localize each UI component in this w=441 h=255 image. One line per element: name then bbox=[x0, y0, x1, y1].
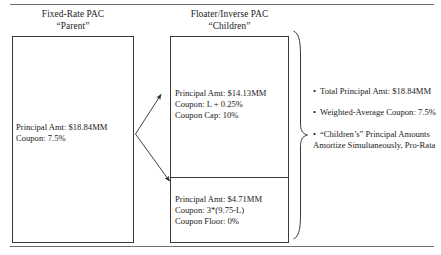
inverse-principal-amount: Principal Amt: $4.71MM bbox=[175, 194, 262, 205]
parent-header-line1: Fixed-Rate PAC bbox=[42, 9, 104, 19]
inverse-pac-details: Principal Amt: $4.71MM Coupon: 3*(9.75-L… bbox=[175, 194, 262, 228]
arrow-to-inverse bbox=[136, 134, 170, 181]
inverse-coupon-floor: Coupon Floor: 0% bbox=[175, 216, 262, 227]
arrow-to-floater bbox=[136, 95, 162, 135]
parent-column-header: Fixed-Rate PAC “Parent” bbox=[12, 9, 134, 32]
bullet-marker-icon: • bbox=[313, 129, 320, 140]
summary-bullet-list: • Total Principal Amt: $18.84MM • Weight… bbox=[313, 86, 439, 151]
bullet-marker-icon: • bbox=[313, 107, 320, 118]
floater-coupon-cap: Coupon Cap: 10% bbox=[175, 110, 266, 121]
floater-coupon: Coupon: L + 0.25% bbox=[175, 99, 266, 110]
floater-pac-details: Principal Amt: $14.13MM Coupon: L + 0.25… bbox=[175, 88, 266, 122]
list-item: • Total Principal Amt: $18.84MM bbox=[313, 86, 439, 97]
list-item: • Weighted-Average Coupon: 7.5% bbox=[313, 107, 439, 118]
inverse-coupon: Coupon: 3*(9.75-L) bbox=[175, 205, 262, 216]
parent-pac-details: Principal Amt: $18.84MM Coupon: 7.5% bbox=[16, 122, 107, 144]
children-grouping-brace bbox=[292, 30, 310, 240]
bullet-text-total-principal: Total Principal Amt: $18.84MM bbox=[313, 86, 439, 97]
children-header-line1: Floater/Inverse PAC bbox=[191, 9, 269, 19]
bullet-marker-icon: • bbox=[313, 86, 320, 97]
bottom-horizontal-rule bbox=[10, 246, 434, 247]
bullet-text-weighted-average-coupon: Weighted-Average Coupon: 7.5% bbox=[313, 107, 439, 118]
parent-coupon: Coupon: 7.5% bbox=[16, 133, 107, 144]
floater-principal-amount: Principal Amt: $14.13MM bbox=[175, 88, 266, 99]
children-column-header: Floater/Inverse PAC “Children” bbox=[170, 9, 289, 32]
list-item: • “Children’s” Principal Amounts Amortiz… bbox=[313, 129, 439, 152]
parent-principal-amount: Principal Amt: $18.84MM bbox=[16, 122, 107, 133]
children-box-divider bbox=[171, 177, 288, 178]
children-header-line2: “Children” bbox=[170, 21, 289, 33]
top-horizontal-rule bbox=[10, 4, 434, 5]
parent-header-line2: “Parent” bbox=[12, 21, 134, 33]
bullet-text-amortization: “Children’s” Principal Amounts Amortize … bbox=[313, 129, 439, 152]
